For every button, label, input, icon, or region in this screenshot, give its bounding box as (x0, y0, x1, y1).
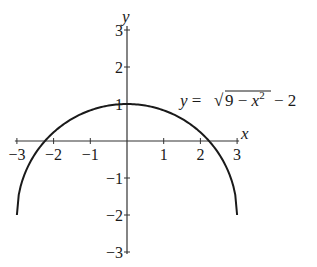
x-tick-label: 2 (196, 146, 204, 163)
x-tick-label: 3 (233, 146, 241, 163)
equation-equals: = (192, 91, 202, 110)
y-tick-label: −2 (106, 207, 123, 224)
svg-text:9 − x2: 9 − x2 (225, 89, 265, 110)
function-graph: −3−2−1123321−1−2−3 x y y = √ 9 − x2 − 2 (0, 0, 317, 267)
y-tick-label: −1 (106, 170, 123, 187)
svg-text:y =: y = (178, 91, 201, 110)
equation-tail: − 2 (274, 91, 296, 110)
x-tick-label: −2 (45, 146, 62, 163)
sqrt-symbol: √ (214, 91, 224, 110)
y-tick-label: −3 (106, 244, 123, 261)
x-tick-label: −3 (8, 146, 25, 163)
x-tick-label: −1 (82, 146, 99, 163)
equation-annotation: y = √ 9 − x2 − 2 (178, 89, 296, 110)
x-axis-label: x (240, 124, 249, 143)
y-axis-label: y (120, 7, 130, 26)
axes (15, 26, 239, 254)
y-tick-label: 2 (115, 59, 123, 76)
equation-exponent: 2 (259, 89, 265, 101)
x-tick-label: 1 (160, 146, 168, 163)
equation-y: y (178, 91, 188, 110)
equation-nine: 9 − (225, 91, 252, 110)
